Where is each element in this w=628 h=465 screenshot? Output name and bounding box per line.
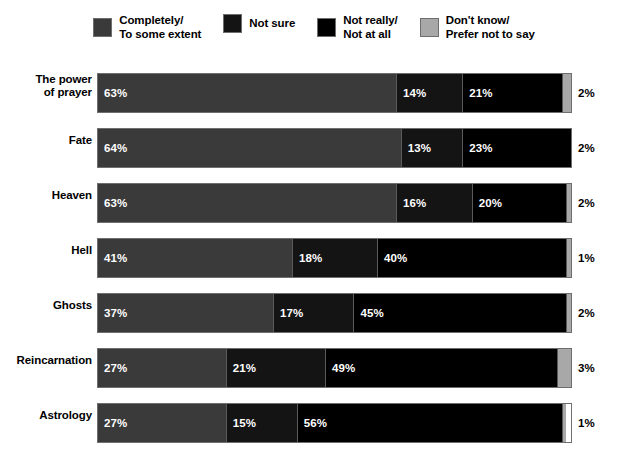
bar-segment-value: 41% [98,252,127,264]
chart-row: Heaven63%16%20%2%2% [0,176,628,231]
bar-segment-not_sure: 17% [273,294,353,332]
bar-segment-dont_know_prefer_not_to_say: 3% [557,349,571,387]
bar-segment-not_really_not_at_all: 23% [462,129,571,167]
stacked-bar: 27%15%56%1% [97,403,572,443]
bar-segment-value: 37% [98,307,127,319]
bar-outside-value: 2% [578,128,595,168]
chart-row: Reincarnation27%21%49%3%3% [0,341,628,396]
bar-segment-not_really_not_at_all: 56% [297,404,562,442]
chart-row: Astrology27%15%56%1%1% [0,396,628,451]
bar-outside-value: 2% [578,73,595,113]
bar-segment-value: 56% [298,417,327,429]
stacked-bar: 41%18%40%1% [97,238,572,278]
bar-segment-not_really_not_at_all: 40% [377,239,566,277]
legend-item-completely_to_some_extent[interactable]: Completely/ To some extent [93,14,201,41]
chart-row: Ghosts37%17%45%2%2% [0,286,628,341]
legend-label-completely_to_some_extent: Completely/ To some extent [119,14,201,41]
bar-segment-value: 15% [227,417,256,429]
legend-item-not_sure[interactable]: Not sure [223,14,295,33]
bar-outside-value: 2% [578,293,595,333]
bar-segment-completely_to_some_extent: 63% [98,74,396,112]
legend-item-not_really_not_at_all[interactable]: Not really/ Not at all [317,14,398,41]
bar-segment-value: 17% [274,307,303,319]
bar-segment-value: 13% [402,142,431,154]
stacked-bar: 64%13%23%2% [97,128,572,168]
legend-label-dont_know_prefer_not_to_say: Don't know/ Prefer not to say [446,14,535,41]
bar-outside-value: 2% [578,183,595,223]
bar-segment-not_really_not_at_all: 45% [353,294,566,332]
chart-row: The power of prayer63%14%21%2%2% [0,66,628,121]
bar-segment-not_sure: 14% [396,74,462,112]
stacked-bar: 37%17%45%2% [97,293,572,333]
chart-legend: Completely/ To some extentNot sureNot re… [0,14,628,41]
bar-segment-not_really_not_at_all: 20% [472,184,567,222]
category-label: Reincarnation [0,341,92,381]
bar-segment-value: 21% [227,362,256,374]
bar-segment-value: 63% [98,87,127,99]
bar-segment-not_sure: 21% [226,349,325,387]
bar-outside-value: 3% [578,348,595,388]
bar-segment-dont_know_prefer_not_to_say: 2% [566,294,572,332]
bar-segment-not_really_not_at_all: 49% [325,349,557,387]
bar-segment-not_really_not_at_all: 21% [462,74,561,112]
chart-plot-area: The power of prayer63%14%21%2%2%Fate64%1… [0,66,628,451]
bar-segment-not_sure: 16% [396,184,472,222]
bar-segment-value: 23% [463,142,492,154]
category-label: Ghosts [0,286,92,326]
bar-segment-dont_know_prefer_not_to_say: 2% [566,184,572,222]
category-label: Astrology [0,396,92,436]
chart-row: Fate64%13%23%2%2% [0,121,628,176]
bar-segment-value: 14% [397,87,426,99]
bar-segment-completely_to_some_extent: 27% [98,349,226,387]
legend-swatch-not_really_not_at_all [317,18,336,37]
category-label: Heaven [0,176,92,216]
category-label: Fate [0,121,92,161]
bar-segment-value: 27% [98,417,127,429]
legend-swatch-dont_know_prefer_not_to_say [420,18,439,37]
bar-segment-value: 64% [98,142,127,154]
bar-segment-value: 63% [98,197,127,209]
legend-label-not_really_not_at_all: Not really/ Not at all [343,14,398,41]
bar-segment-dont_know_prefer_not_to_say: 2% [571,129,572,167]
legend-item-dont_know_prefer_not_to_say[interactable]: Don't know/ Prefer not to say [420,14,535,41]
bar-segment-not_sure: 18% [292,239,377,277]
category-label: Hell [0,231,92,271]
stacked-bar: 63%14%21%2% [97,73,572,113]
bar-segment-value: 20% [473,197,502,209]
bar-segment-not_sure: 13% [401,129,462,167]
legend-label-not_sure: Not sure [249,17,295,31]
bar-outside-value: 1% [578,403,595,443]
bar-segment-value: 45% [354,307,383,319]
stacked-bar: 27%21%49%3% [97,348,572,388]
stacked-bar: 63%16%20%2% [97,183,572,223]
bar-segment-dont_know_prefer_not_to_say: 1% [562,404,567,442]
bar-segment-completely_to_some_extent: 41% [98,239,292,277]
bar-segment-completely_to_some_extent: 37% [98,294,273,332]
chart-row: Hell41%18%40%1%1% [0,231,628,286]
legend-swatch-not_sure [223,14,242,33]
bar-segment-value: 18% [293,252,322,264]
bar-segment-value: 21% [463,87,492,99]
category-label: The power of prayer [0,66,92,106]
bar-outside-value: 1% [578,238,595,278]
legend-swatch-completely_to_some_extent [93,18,112,37]
bar-segment-value: 49% [326,362,355,374]
bar-segment-completely_to_some_extent: 63% [98,184,396,222]
bar-segment-dont_know_prefer_not_to_say: 2% [562,74,571,112]
bar-segment-completely_to_some_extent: 64% [98,129,401,167]
bar-segment-not_sure: 15% [226,404,297,442]
bar-segment-completely_to_some_extent: 27% [98,404,226,442]
bar-segment-dont_know_prefer_not_to_say: 1% [566,239,571,277]
bar-segment-value: 16% [397,197,426,209]
bar-segment-value: 27% [98,362,127,374]
bar-segment-value: 40% [378,252,407,264]
